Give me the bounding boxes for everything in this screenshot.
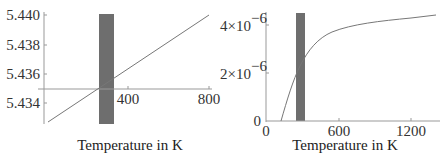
left-x-tick: 400 — [117, 91, 140, 107]
left-y-tick: 5.440 — [6, 7, 40, 23]
right-x-axis-label: Temperature in K — [292, 137, 398, 153]
right-x-tick: 1200 — [396, 123, 426, 139]
chart-canvas: 5.440 5.438 5.436 5.434 400 800 Temperat… — [0, 0, 446, 162]
left-x-tick: 800 — [198, 91, 221, 107]
right-x-tick: 0 — [262, 123, 270, 139]
left-y-tick: 5.438 — [6, 37, 40, 53]
left-y-tick: 5.434 — [6, 95, 40, 111]
left-x-axis-label: Temperature in K — [77, 137, 183, 153]
left-chart: 5.440 5.438 5.436 5.434 400 800 Temperat… — [6, 7, 220, 153]
right-y-tick-exponent: −6 — [251, 10, 267, 26]
right-y-tick: 0 — [254, 113, 262, 129]
left-shaded-band — [99, 14, 114, 124]
right-y-tick: 4×10 — [220, 18, 251, 34]
right-y-tick-exponent: −6 — [251, 58, 267, 74]
right-shaded-band — [296, 13, 305, 121]
left-y-tick: 5.436 — [6, 66, 40, 82]
right-y-tick: 2×10 — [220, 66, 251, 82]
right-chart: 0 2×10 −6 4×10 −6 0 600 1200 Temperature… — [220, 10, 440, 153]
